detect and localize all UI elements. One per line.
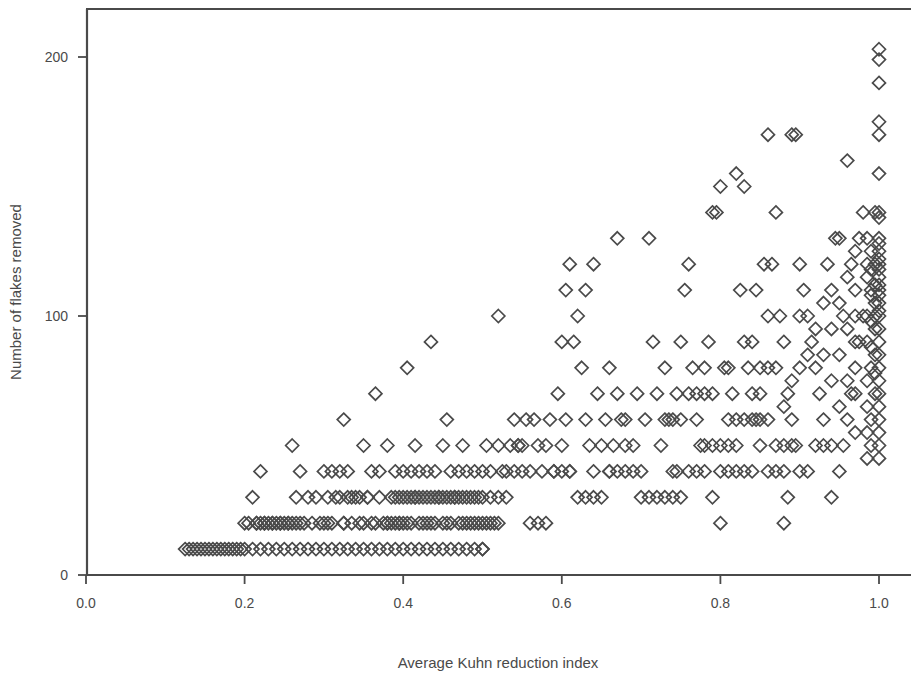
data-point-marker [476, 543, 489, 556]
data-point-marker [555, 439, 568, 452]
data-point-marker [801, 465, 814, 478]
data-point-marker [714, 439, 727, 452]
data-point-marker [754, 439, 767, 452]
data-point-marker [317, 543, 330, 556]
data-point-marker [551, 387, 564, 400]
data-point-marker [678, 284, 691, 297]
data-point-marker [460, 543, 473, 556]
data-point-marker [619, 413, 632, 426]
data-point-marker [865, 439, 878, 452]
x-tick-label: 0.0 [76, 595, 96, 611]
data-point-marker [405, 465, 418, 478]
data-point-marker [761, 465, 774, 478]
data-point-marker [246, 491, 259, 504]
data-point-marker [873, 76, 886, 89]
data-point-marker [873, 128, 886, 141]
data-point-marker [341, 465, 354, 478]
data-point-marker [793, 258, 806, 271]
data-point-marker [579, 413, 592, 426]
data-point-marker [409, 439, 422, 452]
data-point-marker [825, 284, 838, 297]
data-point-marker [365, 543, 378, 556]
data-point-marker [420, 465, 433, 478]
y-axis-ticks [78, 57, 87, 575]
data-point-marker [512, 439, 525, 452]
data-point-marker [734, 284, 747, 297]
data-point-marker [674, 491, 687, 504]
data-point-marker [809, 322, 822, 335]
data-point-marker [821, 258, 834, 271]
data-point-marker [769, 465, 782, 478]
data-point-marker [817, 297, 830, 310]
data-point-marker [706, 491, 719, 504]
data-point-marker [650, 387, 663, 400]
data-point-marker [841, 374, 854, 387]
data-point-marker [635, 491, 648, 504]
data-point-marker [373, 543, 386, 556]
x-axis-ticks [86, 575, 879, 584]
data-point-marker [690, 465, 703, 478]
data-point-marker [476, 543, 489, 556]
data-point-marker [809, 361, 822, 374]
y-tick-label: 200 [45, 49, 69, 65]
data-point-marker [873, 206, 886, 219]
data-point-marker [714, 180, 727, 193]
data-point-marker [658, 491, 671, 504]
data-point-marker [769, 206, 782, 219]
data-point-marker [865, 413, 878, 426]
data-point-marker [758, 258, 771, 271]
data-point-marker [761, 128, 774, 141]
data-point-marker [833, 297, 846, 310]
data-point-marker [575, 361, 588, 374]
data-point-marker [294, 543, 307, 556]
data-point-marker [730, 465, 743, 478]
data-point-marker [833, 400, 846, 413]
x-tick-label: 0.4 [393, 595, 413, 611]
data-point-marker [611, 232, 624, 245]
data-point-marker [682, 258, 695, 271]
x-axis-label: Average Kuhn reduction index [398, 654, 599, 671]
data-point-marker [603, 465, 616, 478]
data-point-marker [781, 491, 794, 504]
data-point-marker [698, 439, 711, 452]
data-point-marker [424, 335, 437, 348]
data-point-marker [793, 361, 806, 374]
data-point-marker [714, 517, 727, 530]
data-point-marker [500, 491, 513, 504]
data-point-marker [452, 543, 465, 556]
data-point-marker [321, 517, 334, 530]
data-point-marker [599, 413, 612, 426]
data-point-marker [468, 543, 481, 556]
data-point-marker [702, 335, 715, 348]
data-point-marker [849, 361, 862, 374]
data-point-marker [849, 284, 862, 297]
data-point-marker [286, 439, 299, 452]
data-point-marker [639, 413, 652, 426]
data-point-marker [813, 387, 826, 400]
data-point-marker [809, 439, 822, 452]
data-point-marker [730, 167, 743, 180]
data-point-marker [563, 465, 576, 478]
x-tick-label: 0.6 [552, 595, 572, 611]
data-point-marker [587, 465, 600, 478]
data-point-marker [750, 284, 763, 297]
data-point-marker [793, 310, 806, 323]
data-point-marker [444, 465, 457, 478]
data-point-marker [420, 517, 433, 530]
data-point-marker [825, 374, 838, 387]
data-point-marker [849, 387, 862, 400]
data-point-marker [611, 465, 624, 478]
data-point-marker [405, 543, 418, 556]
data-point-marker [401, 361, 414, 374]
data-point-marker [357, 543, 370, 556]
data-point-marker [738, 465, 751, 478]
data-point-marker [817, 348, 830, 361]
data-point-marker [643, 491, 656, 504]
data-point-marker [325, 465, 338, 478]
data-point-marker [278, 543, 291, 556]
data-point-marker [571, 310, 584, 323]
data-point-marker [397, 543, 410, 556]
data-point-marker [337, 413, 350, 426]
data-point-marker [833, 348, 846, 361]
data-point-marker [714, 465, 727, 478]
